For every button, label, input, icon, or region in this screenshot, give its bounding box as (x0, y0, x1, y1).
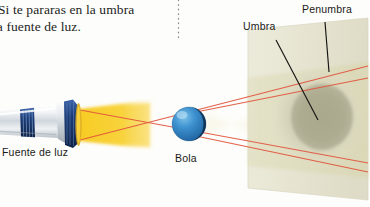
light-beam-cone (79, 99, 158, 150)
label-umbra: Umbra (243, 20, 276, 32)
label-light-source: Fuente de luz (2, 146, 68, 158)
caption-line-2: la fuente de luz. (0, 18, 81, 35)
label-penumbra: Penumbra (302, 3, 352, 15)
caption-line-1: Si te pararas en la umbra (0, 1, 134, 18)
umbra-region (291, 84, 353, 150)
ball-object (172, 107, 206, 141)
shadow-optics-figure: Si te pararas en la umbra la fuente de l… (0, 0, 370, 207)
flashlight (0, 100, 82, 148)
label-ball: Bola (175, 152, 197, 164)
